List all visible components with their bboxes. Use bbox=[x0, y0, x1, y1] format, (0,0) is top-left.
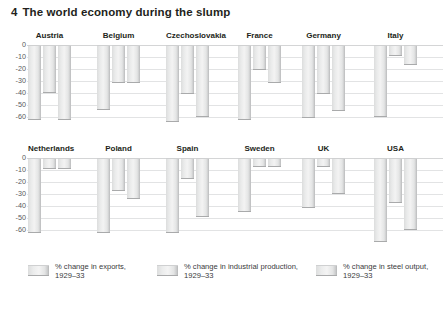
country-label-uk: UK bbox=[302, 145, 345, 153]
country-label-belgium: Belgium bbox=[97, 32, 140, 40]
bar bbox=[196, 45, 209, 116]
country-label-germany: Germany bbox=[302, 32, 345, 40]
legend-label-steel-output: % change in steel output, 1929–33 bbox=[343, 262, 428, 280]
country-group-sweden: Sweden bbox=[238, 158, 281, 236]
bar bbox=[374, 45, 387, 116]
country-group-usa: USA bbox=[374, 158, 417, 236]
bars bbox=[28, 45, 71, 123]
bar bbox=[97, 45, 110, 109]
bars bbox=[97, 45, 140, 123]
legend-swatch-industrial-production bbox=[157, 265, 178, 276]
bar bbox=[181, 45, 194, 93]
bars bbox=[166, 45, 209, 123]
y-axis-tick: -30 bbox=[16, 77, 26, 84]
bars bbox=[238, 158, 281, 236]
y-axis-tick: -60 bbox=[16, 226, 26, 233]
y-axis-tick: 0 bbox=[22, 41, 26, 48]
y-axis-tick: -10 bbox=[16, 53, 26, 60]
bar bbox=[43, 158, 56, 168]
country-label-netherlands: Netherlands bbox=[28, 145, 71, 153]
legend-swatch-exports bbox=[28, 265, 49, 276]
country-label-spain: Spain bbox=[166, 145, 209, 153]
bar bbox=[112, 45, 125, 82]
bar bbox=[112, 158, 125, 190]
bar bbox=[28, 45, 41, 119]
country-label-czechoslovakia: Czechoslovakia bbox=[166, 32, 209, 40]
plot-area-row-2: NetherlandsPolandSpainSwedenUKUSA bbox=[27, 158, 443, 236]
bar bbox=[302, 45, 315, 117]
country-label-sweden: Sweden bbox=[238, 145, 281, 153]
y-axis-tick: -20 bbox=[16, 178, 26, 185]
country-label-france: France bbox=[238, 32, 281, 40]
country-group-italy: Italy bbox=[374, 45, 417, 123]
y-axis-tick: -20 bbox=[16, 65, 26, 72]
bar bbox=[268, 158, 281, 166]
country-label-italy: Italy bbox=[374, 32, 417, 40]
legend-item-exports: % change in exports, 1929–33 bbox=[28, 262, 126, 280]
bar bbox=[97, 158, 110, 232]
bar bbox=[268, 45, 281, 82]
bar bbox=[302, 158, 315, 207]
bar bbox=[181, 158, 194, 178]
country-group-france: France bbox=[238, 45, 281, 123]
y-axis-tick: -60 bbox=[16, 113, 26, 120]
bars bbox=[302, 158, 345, 236]
bar bbox=[374, 158, 387, 241]
bar bbox=[127, 158, 140, 198]
y-axis-tick: -10 bbox=[16, 166, 26, 173]
country-group-austria: Austria bbox=[28, 45, 71, 123]
bars bbox=[374, 45, 417, 123]
bar bbox=[253, 45, 266, 69]
country-group-spain: Spain bbox=[166, 158, 209, 236]
bar bbox=[127, 45, 140, 82]
country-group-poland: Poland bbox=[97, 158, 140, 236]
chart-row-1: 0-10-20-30-40-50-60 AustriaBelgiumCzecho… bbox=[0, 28, 448, 136]
bar bbox=[317, 45, 330, 93]
bar bbox=[332, 158, 345, 193]
bar bbox=[28, 158, 41, 232]
legend-label-steel-line2: 1929–33 bbox=[343, 271, 373, 280]
bar bbox=[389, 158, 402, 202]
bar bbox=[332, 45, 345, 110]
y-axis-tick: -30 bbox=[16, 190, 26, 197]
country-label-poland: Poland bbox=[97, 145, 140, 153]
bar bbox=[253, 158, 266, 166]
bar bbox=[238, 45, 251, 119]
bars bbox=[238, 45, 281, 123]
country-label-austria: Austria bbox=[28, 32, 71, 40]
plot-area-row-1: AustriaBelgiumCzechoslovakiaFranceGerman… bbox=[27, 45, 443, 123]
bar bbox=[58, 45, 71, 119]
bars bbox=[97, 158, 140, 236]
legend-label-steel-line1: % change in steel output, bbox=[343, 262, 428, 271]
bar bbox=[317, 158, 330, 166]
bars bbox=[28, 158, 71, 236]
y-axis-tick: 0 bbox=[22, 154, 26, 161]
bar bbox=[166, 158, 179, 232]
country-group-belgium: Belgium bbox=[97, 45, 140, 123]
country-group-uk: UK bbox=[302, 158, 345, 236]
bar bbox=[43, 45, 56, 92]
y-axis-row-2: 0-10-20-30-40-50-60 bbox=[0, 158, 26, 236]
bar bbox=[58, 158, 71, 168]
bars bbox=[166, 158, 209, 236]
country-group-germany: Germany bbox=[302, 45, 345, 123]
page-title: 4The world economy during the slump bbox=[11, 6, 230, 18]
legend-item-steel-output: % change in steel output, 1929–33 bbox=[316, 262, 428, 280]
figure-title-text: The world economy during the slump bbox=[23, 6, 231, 18]
legend-swatch-steel-output bbox=[316, 265, 337, 276]
legend-label-exports: % change in exports, 1929–33 bbox=[55, 262, 126, 280]
y-axis-row-1: 0-10-20-30-40-50-60 bbox=[0, 45, 26, 123]
legend-item-industrial-production: % change in industrial production, 1929–… bbox=[157, 262, 298, 280]
bar bbox=[238, 158, 251, 211]
bar bbox=[166, 45, 179, 121]
bar bbox=[196, 158, 209, 216]
legend-label-industrial-line2: 1929–33 bbox=[184, 271, 214, 280]
legend-label-industrial-line1: % change in industrial production, bbox=[184, 262, 298, 271]
legend-label-exports-line2: 1929–33 bbox=[55, 271, 85, 280]
y-axis-tick: -50 bbox=[16, 214, 26, 221]
country-group-netherlands: Netherlands bbox=[28, 158, 71, 236]
country-group-czechoslovakia: Czechoslovakia bbox=[166, 45, 209, 123]
y-axis-tick: -50 bbox=[16, 101, 26, 108]
bars bbox=[374, 158, 417, 236]
bar bbox=[389, 45, 402, 55]
